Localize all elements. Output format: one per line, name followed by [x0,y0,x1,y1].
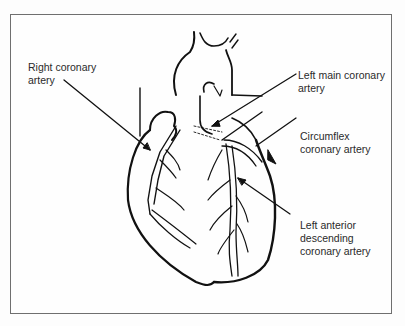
pointer-right-coronary [64,80,150,150]
label-right-coronary-artery: Right coronary artery [28,61,96,87]
pointer-lad [238,178,290,214]
heart-illustration [0,0,405,326]
heart-outline [128,130,214,285]
label-circumflex-coronary-artery: Circumflex coronary artery [300,130,371,156]
pointer-circumflex [256,118,296,146]
aorta [174,32,194,95]
label-left-main-coronary-artery: Left main coronary artery [298,69,385,95]
label-left-anterior-descending-coronary-artery: Left anterior descending coronary artery [300,219,371,258]
right-atrium [150,112,176,140]
